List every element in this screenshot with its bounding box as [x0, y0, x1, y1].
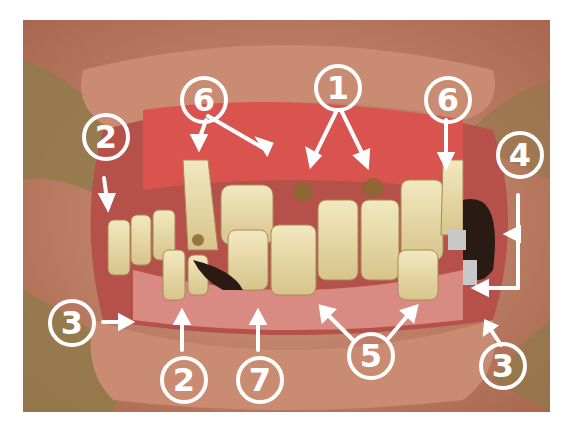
annotation-label-6-right: 6 [424, 76, 472, 124]
annotation-number: 1 [318, 68, 358, 108]
annotation-number: 4 [500, 135, 540, 175]
annotation-number: 6 [184, 80, 224, 120]
annotation-number: 5 [351, 336, 391, 376]
annotation-label-7: 7 [236, 356, 284, 404]
annotation-label-3-left: 3 [48, 299, 96, 347]
annotation-label-5: 5 [347, 332, 395, 380]
annotation-number: 6 [428, 80, 468, 120]
annotation-number: 7 [240, 360, 280, 400]
annotation-label-4: 4 [496, 131, 544, 179]
annotation-label-2-top: 2 [82, 113, 130, 161]
annotation-number: 3 [483, 346, 523, 386]
annotation-number: 2 [164, 360, 204, 400]
annotation-label-6-left: 6 [180, 76, 228, 124]
annotation-label-1: 1 [314, 64, 362, 112]
annotation-label-2-bottom: 2 [160, 356, 208, 404]
annotation-arrows [23, 20, 550, 412]
annotation-number: 2 [86, 117, 126, 157]
dental-photograph [23, 20, 550, 412]
annotation-label-3-right: 3 [479, 342, 527, 390]
annotation-number: 3 [52, 303, 92, 343]
